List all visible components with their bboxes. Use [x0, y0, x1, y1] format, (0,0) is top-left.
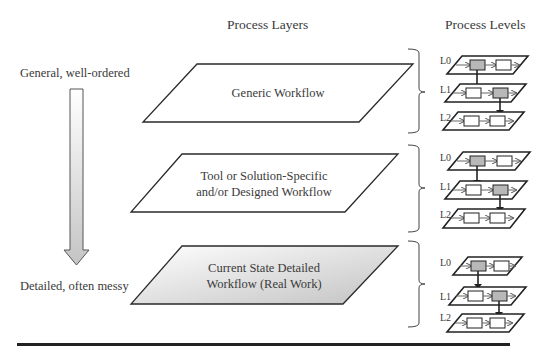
level-label-l0: L0: [440, 257, 451, 268]
down-arrow-icon: [64, 89, 89, 265]
layer-label-line-2: Workflow (Real Work): [206, 277, 321, 291]
level-label-l1: L1: [440, 84, 451, 95]
layer-label-line-2: and/or Designed Workflow: [196, 185, 332, 199]
levels-diagram-2: L0 L1 L2: [440, 152, 530, 228]
layer-generic-workflow: Generic Workflow: [143, 64, 413, 122]
brace-3: [408, 241, 425, 327]
layer-label-line-1: Tool or Solution-Specific: [201, 169, 328, 183]
label-detailed-often-messy: Detailed, often messy: [20, 279, 129, 293]
layer-label-line-1: Current State Detailed: [208, 261, 321, 275]
level-label-l0: L0: [440, 152, 451, 163]
level-label-l0: L0: [440, 55, 451, 66]
brace-1: [408, 49, 425, 133]
levels-diagram-1: L0 L1 L2: [440, 55, 528, 130]
bottom-rule: [17, 343, 510, 346]
layer-label: Generic Workflow: [232, 86, 325, 100]
layer-current-state-detailed: Current State Detailed Workflow (Real Wo…: [131, 246, 398, 304]
level-label-l1: L1: [440, 181, 451, 192]
label-general-well-ordered: General, well-ordered: [20, 66, 130, 80]
levels-diagram-3: L0 L1 L2: [440, 257, 526, 332]
brace-2: [408, 145, 425, 232]
header-process-levels: Process Levels: [445, 17, 526, 32]
process-layers-diagram: Process Layers Process Levels General, w…: [0, 0, 543, 358]
level-label-l1: L1: [440, 291, 451, 302]
header-process-layers: Process Layers: [227, 17, 308, 32]
level-label-l2: L2: [440, 209, 451, 220]
level-label-l2: L2: [440, 312, 451, 323]
layer-tool-solution-specific: Tool or Solution-Specific and/or Designe…: [131, 154, 398, 212]
